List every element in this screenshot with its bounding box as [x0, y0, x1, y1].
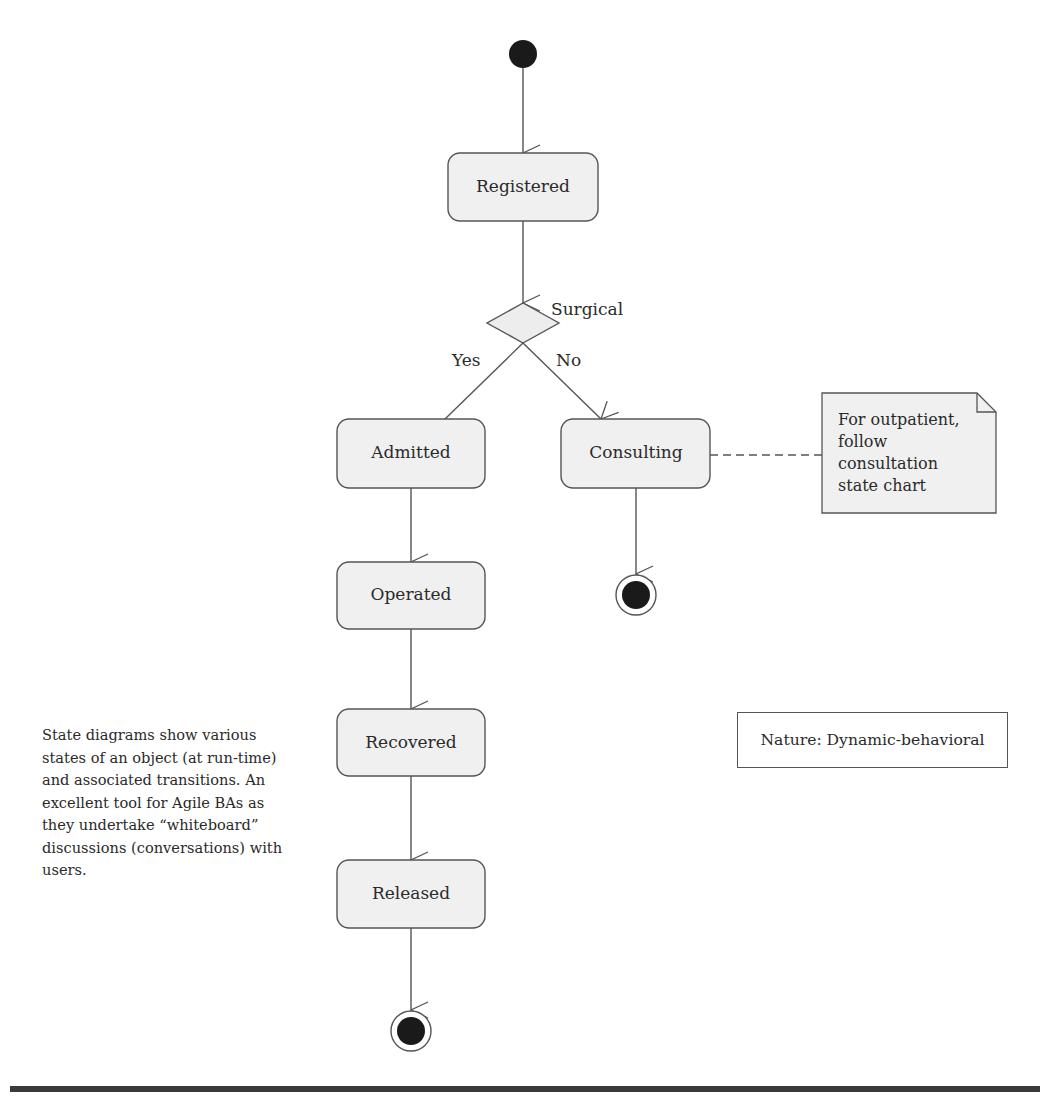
final-node-icon	[616, 575, 656, 615]
description-text: State diagrams show various states of an…	[42, 724, 290, 882]
decision-label: Surgical	[551, 299, 623, 319]
state-consulting: Consulting	[561, 419, 710, 488]
state-released: Released	[337, 860, 485, 928]
svg-text:Admitted: Admitted	[370, 442, 450, 462]
initial-node-icon	[509, 40, 537, 68]
state-recovered: Recovered	[337, 709, 485, 776]
svg-text:Consulting: Consulting	[589, 442, 683, 462]
svg-text:Operated: Operated	[371, 584, 452, 604]
svg-text:follow: follow	[838, 432, 887, 451]
state-diagram: Surgical Yes No Registered Admitted Cons…	[0, 0, 1051, 1107]
svg-text:For outpatient,: For outpatient,	[838, 410, 960, 429]
final-node-icon	[391, 1011, 431, 1051]
decision-diamond	[487, 303, 559, 343]
svg-text:Released: Released	[372, 883, 450, 903]
state-admitted: Admitted	[337, 419, 485, 488]
bottom-rule	[10, 1086, 1040, 1092]
state-registered: Registered	[448, 153, 598, 221]
note: For outpatient, follow consultation stat…	[822, 393, 996, 513]
nature-label: Nature: Dynamic-behavioral	[760, 731, 984, 749]
no-label: No	[556, 350, 581, 370]
nature-box: Nature: Dynamic-behavioral	[737, 712, 1008, 768]
svg-text:consultation: consultation	[838, 454, 938, 473]
yes-label: Yes	[451, 350, 481, 370]
state-operated: Operated	[337, 562, 485, 629]
svg-text:Recovered: Recovered	[365, 732, 456, 752]
svg-text:state chart: state chart	[838, 476, 927, 495]
svg-text:Registered: Registered	[476, 176, 570, 196]
